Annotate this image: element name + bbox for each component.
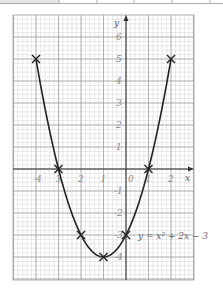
x-tick-label: 2 — [77, 174, 84, 184]
y-tick-label: -2 — [114, 208, 123, 218]
y-axis-label: y — [113, 18, 120, 28]
x-axis-label: x — [185, 173, 190, 183]
y-axis-arrow-icon — [124, 15, 129, 21]
x-tick-label: 2 — [167, 174, 174, 184]
y-tick-label: -1 — [114, 186, 123, 196]
top-table-lines — [0, 0, 223, 4]
y-tick-label: 6 — [116, 32, 122, 42]
y-tick-label: 5 — [116, 54, 122, 64]
y-tick-label: 3 — [116, 98, 122, 108]
x-tick-label: 1 — [101, 174, 107, 184]
y-tick-label: 2 — [115, 120, 122, 130]
y-tick-label: -4 — [114, 252, 123, 262]
x-tick-label: 0 — [128, 174, 134, 184]
x-tick-label: -4 — [33, 174, 42, 184]
equation-label: y = x² + 2x − 3 — [137, 231, 208, 241]
y-tick-label: 1 — [116, 142, 122, 152]
table-cell — [0, 0, 59, 4]
x-axis-arrow-icon — [188, 167, 194, 172]
parabola-chart: -4321012654321-1-2-3-4 x y y = x² + 2x −… — [0, 0, 223, 289]
y-tick-label: 4 — [115, 76, 122, 86]
